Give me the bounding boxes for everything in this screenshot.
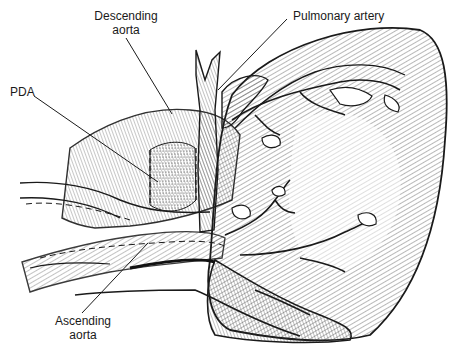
label-pda: PDA xyxy=(10,85,35,99)
heart-drawing xyxy=(0,0,450,348)
label-pulmonary-artery: Pulmonary artery xyxy=(293,9,384,23)
pda-illustration: Descending aorta Pulmonary artery PDA As… xyxy=(0,0,450,348)
pda-ductus xyxy=(150,142,196,211)
label-ascending-aorta: Ascending aorta xyxy=(50,314,116,342)
label-descending-aorta-line1: Descending xyxy=(84,9,168,23)
label-ascending-aorta-line1: Ascending xyxy=(50,314,116,328)
label-ascending-aorta-line2: aorta xyxy=(50,328,116,342)
label-descending-aorta-line2: aorta xyxy=(84,23,168,37)
ascending-aorta-vessel xyxy=(22,232,228,292)
label-descending-aorta: Descending aorta xyxy=(84,9,168,37)
leader-descending-aorta xyxy=(126,38,172,114)
